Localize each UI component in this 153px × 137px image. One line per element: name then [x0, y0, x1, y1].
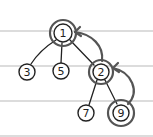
node-label: 7 [83, 107, 90, 120]
arrow-2-to-1 [75, 32, 102, 61]
node-2: 2 [89, 60, 113, 84]
node-label: 1 [60, 27, 67, 40]
node-label: 3 [24, 66, 31, 79]
node-1: 1 [50, 20, 76, 46]
node-3: 3 [19, 64, 35, 80]
node-label: 2 [98, 66, 105, 79]
node-label: 5 [58, 65, 65, 78]
edge-1-2 [70, 40, 94, 65]
edge-1-3 [31, 40, 56, 64]
node-7: 7 [78, 105, 94, 121]
node-5: 5 [53, 63, 69, 79]
diagram-svg: 1 3 5 2 7 9 [0, 0, 153, 137]
node-label: 9 [118, 107, 125, 120]
arrow-9-to-2 [113, 68, 134, 104]
node-9: 9 [108, 100, 134, 126]
tree-diagram: 1 3 5 2 7 9 [0, 0, 153, 137]
